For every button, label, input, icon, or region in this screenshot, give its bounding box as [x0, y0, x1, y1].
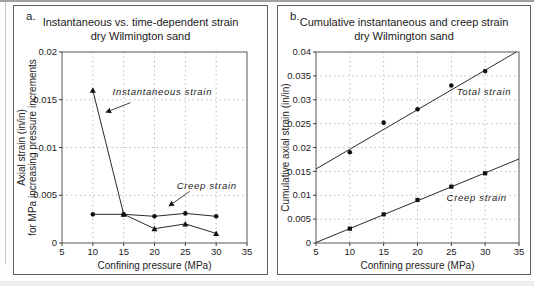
x-tick-label: 20 — [412, 246, 423, 257]
x-tick-label: 15 — [378, 246, 389, 257]
x-axis-label: Confining pressure (MPa) — [98, 260, 212, 271]
scan-edge-left — [5, 2, 6, 264]
y-tick-label: 0.035 — [287, 70, 311, 81]
scan-edge-top — [0, 0, 534, 2]
x-axis: 5101520253035 — [313, 243, 524, 257]
series-instantaneous-strain — [90, 87, 219, 236]
panel-b-title: Cumulative instantaneous and creep strai… — [278, 15, 530, 29]
y-tick-label: 0.02 — [293, 142, 312, 153]
series-creep-strain — [91, 211, 219, 218]
x-tick-label: 10 — [88, 246, 99, 257]
y-tick-label: 0.03 — [293, 94, 312, 105]
panel-a-chart: 510152025303500.0050.010.0150.02Confinin… — [14, 34, 267, 274]
scan-edge-bottom — [0, 281, 534, 286]
x-tick-label: 30 — [480, 246, 491, 257]
x-axis: 5101520253035 — [59, 243, 252, 257]
y-tick-label: 0.04 — [293, 46, 312, 57]
y-tick-label: 0.01 — [39, 142, 58, 153]
x-tick-label: 20 — [149, 246, 160, 257]
y-tick-label: 0.005 — [287, 213, 311, 224]
y-tick-label: 0 — [306, 237, 311, 248]
x-tick-label: 30 — [211, 246, 222, 257]
panel-b-chart: 510152025303500.0050.010.0150.020.0250.0… — [278, 34, 530, 274]
y-tick-label: 0 — [52, 237, 57, 248]
svg-text:Creep strain: Creep strain — [447, 192, 507, 203]
y-axis-label: Axial strain (in/in) — [16, 109, 27, 186]
annotation-instantaneous-strain: Instantaneous strain — [106, 86, 212, 112]
gridlines — [316, 52, 519, 243]
figure-canvas: a. Instantaneous vs. time-dependent stra… — [0, 0, 534, 286]
y-tick-label: 0.02 — [39, 46, 58, 57]
panel-b: b. Cumulative instantaneous and creep st… — [277, 5, 531, 275]
x-tick-label: 5 — [313, 246, 318, 257]
x-tick-label: 10 — [345, 246, 356, 257]
x-tick-label: 15 — [118, 246, 129, 257]
series-total-strain — [316, 52, 516, 169]
y-axis-label: for MPa increasing pressure increments — [27, 59, 38, 236]
svg-text:Instantaneous strain: Instantaneous strain — [113, 86, 213, 97]
svg-text:Total strain: Total strain — [457, 86, 512, 97]
y-axis: 00.0050.010.0150.020.0250.030.0350.04 — [287, 46, 316, 248]
annotation-total-strain: Total strain — [457, 86, 512, 97]
y-tick-label: 0.01 — [293, 189, 312, 200]
x-tick-label: 35 — [514, 246, 525, 257]
annotation-creep-strain: Creep strain — [447, 192, 507, 203]
panel-a: a. Instantaneous vs. time-dependent stra… — [13, 5, 268, 275]
svg-text:Creep strain: Creep strain — [177, 180, 237, 191]
x-tick-label: 25 — [180, 246, 191, 257]
x-tick-label: 25 — [446, 246, 457, 257]
y-axis-label: Cumulative axial strain (in/in) — [280, 83, 291, 211]
x-axis-label: Confining pressure (MPa) — [361, 260, 475, 271]
x-tick-label: 5 — [59, 246, 64, 257]
x-tick-label: 35 — [242, 246, 253, 257]
panel-a-title: Instantaneous vs. time-dependent strain — [14, 15, 267, 29]
annotation-creep-strain: Creep strain — [169, 180, 237, 206]
